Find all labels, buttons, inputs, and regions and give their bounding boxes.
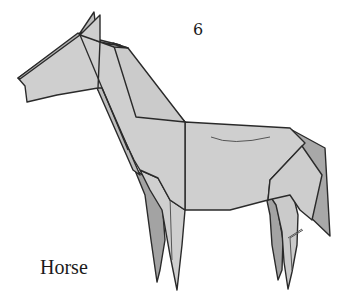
head xyxy=(18,33,100,102)
figure-caption: Horse xyxy=(40,256,88,279)
step-number: 6 xyxy=(193,20,203,39)
